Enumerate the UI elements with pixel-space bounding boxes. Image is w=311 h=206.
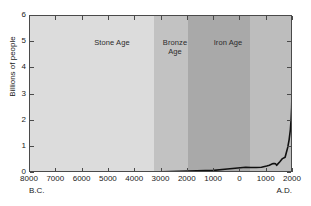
y-tick bbox=[30, 15, 34, 16]
population-history-chart: Stone Age Bronze Age Iron Age Black Deat… bbox=[0, 0, 311, 206]
y-axis-title: Billions of people bbox=[8, 17, 17, 117]
y-tick bbox=[30, 120, 34, 121]
x-tick bbox=[187, 168, 188, 172]
y-tick bbox=[30, 172, 34, 173]
x-tick-top bbox=[161, 16, 162, 20]
x-tick-top bbox=[239, 16, 240, 20]
x-tick-top bbox=[108, 16, 109, 20]
y-tick bbox=[30, 67, 34, 68]
x-tick-top bbox=[213, 16, 214, 20]
x-axis-label-bc: B.C. bbox=[29, 186, 45, 195]
x-tick bbox=[161, 168, 162, 172]
x-tick bbox=[55, 168, 56, 172]
y-tick-right bbox=[287, 120, 291, 121]
y-tick bbox=[30, 41, 34, 42]
y-tick-right bbox=[287, 67, 291, 68]
y-tick-label: 1 bbox=[4, 141, 26, 150]
population-curve bbox=[30, 16, 292, 172]
x-tick-top bbox=[82, 16, 83, 20]
x-tick bbox=[292, 168, 293, 172]
y-tick bbox=[30, 94, 34, 95]
y-tick-right bbox=[287, 15, 291, 16]
y-tick-right bbox=[287, 146, 291, 147]
x-tick-label: 2000 bbox=[275, 174, 309, 183]
x-tick bbox=[82, 168, 83, 172]
y-tick-right bbox=[287, 172, 291, 173]
y-tick-label: 0 bbox=[4, 167, 26, 176]
y-tick-right bbox=[287, 94, 291, 95]
plot-area: Stone Age Bronze Age Iron Age Black Deat… bbox=[29, 15, 292, 172]
x-tick-top bbox=[292, 16, 293, 20]
x-tick bbox=[213, 168, 214, 172]
x-tick bbox=[266, 168, 267, 172]
y-tick bbox=[30, 146, 34, 147]
x-tick bbox=[134, 168, 135, 172]
x-tick bbox=[108, 168, 109, 172]
x-axis-label-ad: A.D. bbox=[272, 186, 292, 195]
x-tick-top bbox=[134, 16, 135, 20]
y-tick-right bbox=[287, 41, 291, 42]
x-tick-top bbox=[55, 16, 56, 20]
x-tick-top bbox=[266, 16, 267, 20]
x-tick-top bbox=[29, 16, 30, 20]
x-tick bbox=[239, 168, 240, 172]
x-tick-top bbox=[187, 16, 188, 20]
